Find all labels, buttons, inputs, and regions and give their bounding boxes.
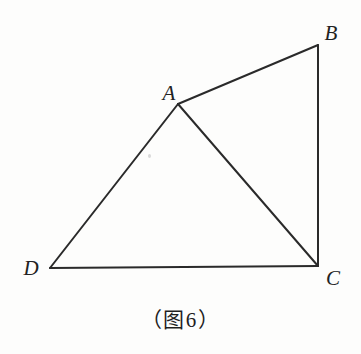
segment-AC: [178, 104, 318, 266]
segment-CD: [50, 266, 318, 268]
segment-AB: [178, 45, 318, 104]
vertex-label-b: B: [325, 23, 338, 44]
vertex-label-a: A: [163, 83, 176, 104]
segment-DA: [50, 104, 178, 268]
geometry-canvas: [0, 0, 361, 354]
vertex-label-d: D: [23, 258, 38, 279]
caption-open-paren: （: [141, 308, 163, 332]
geometry-figure: A B C D （图6）: [0, 0, 361, 354]
caption-close-paren: ）: [198, 308, 220, 332]
vertex-label-c: C: [326, 268, 340, 289]
caption-number: 6: [186, 308, 198, 332]
figure-caption: （图6）: [0, 303, 361, 333]
paper-speck: [148, 154, 151, 158]
caption-word: 图: [163, 308, 185, 332]
